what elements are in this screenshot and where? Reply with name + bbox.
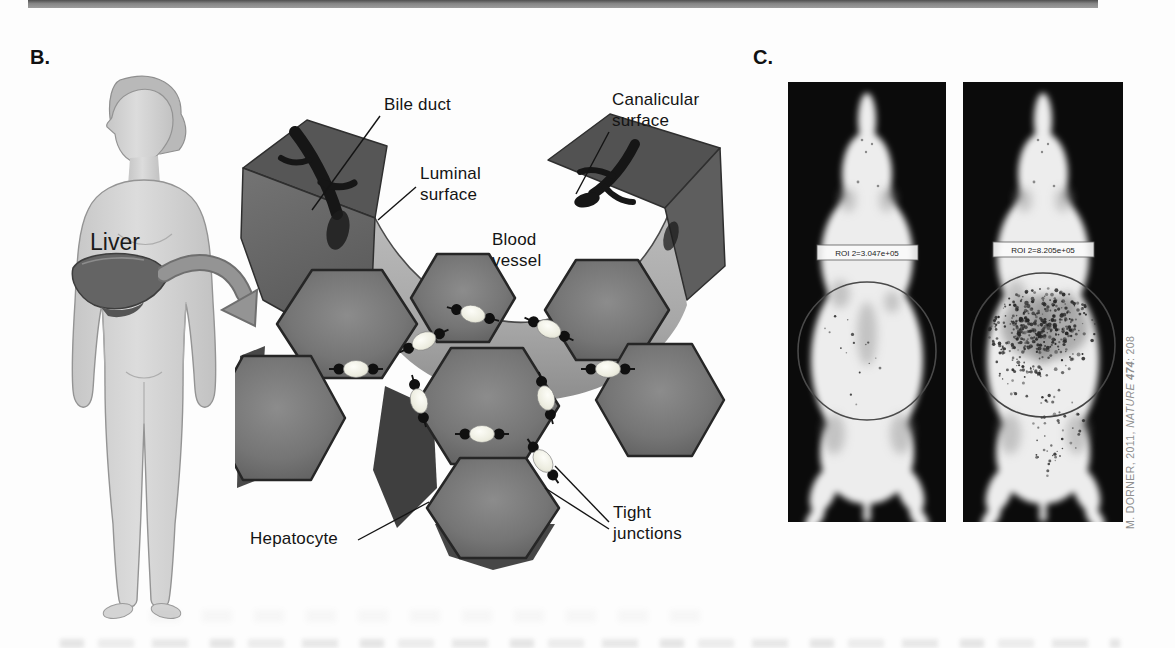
human-foot-left <box>102 601 134 621</box>
label-blood-vessel: Blood vessel <box>492 230 541 271</box>
show-through-texture <box>150 610 710 622</box>
figure-page: B. Liver <box>0 0 1175 648</box>
cutoff-caption-remnant <box>60 639 1120 648</box>
credit-prefix: M. DORNER, 2011, <box>1124 428 1136 529</box>
label-luminal-surface: Luminal surface <box>420 164 481 205</box>
panel-b-letter: B. <box>30 46 50 69</box>
page-top-rule <box>28 0 1098 8</box>
panel-c-letter: C. <box>753 46 773 69</box>
mouse-image-right: ROI 2=8.205e+05 <box>963 82 1123 522</box>
luminal-leader <box>378 187 416 220</box>
label-hepatocyte: Hepatocyte <box>250 529 338 550</box>
hepatocyte-diagram <box>235 88 730 570</box>
credit-suffix: : 208 <box>1124 336 1136 361</box>
liver-label: Liver <box>90 229 140 255</box>
label-bile-duct: Bile duct <box>384 95 451 116</box>
mouse-photo-uninfected: ROI 2=3.047e+05 <box>788 82 946 522</box>
roi-value: ROI 2=8.205e+05 <box>1011 246 1075 255</box>
tight-junction-leader-1 <box>555 466 609 522</box>
credit-volume: 474 <box>1124 361 1136 383</box>
label-canalicular-surface: Canalicular surface <box>612 90 699 131</box>
label-tight-junctions: Tight junctions <box>613 503 682 544</box>
credit-journal: NATURE <box>1124 383 1136 428</box>
mouse-photo-infected: ROI 2=8.205e+05 <box>963 82 1123 522</box>
photo-credit: M. DORNER, 2011, NATURE 474: 208 <box>1124 277 1139 529</box>
human-figure-illustration: Liver <box>40 72 245 632</box>
mouse-image-left: ROI 2=3.047e+05 <box>788 82 946 522</box>
roi-value: ROI 2=3.047e+05 <box>835 249 899 258</box>
